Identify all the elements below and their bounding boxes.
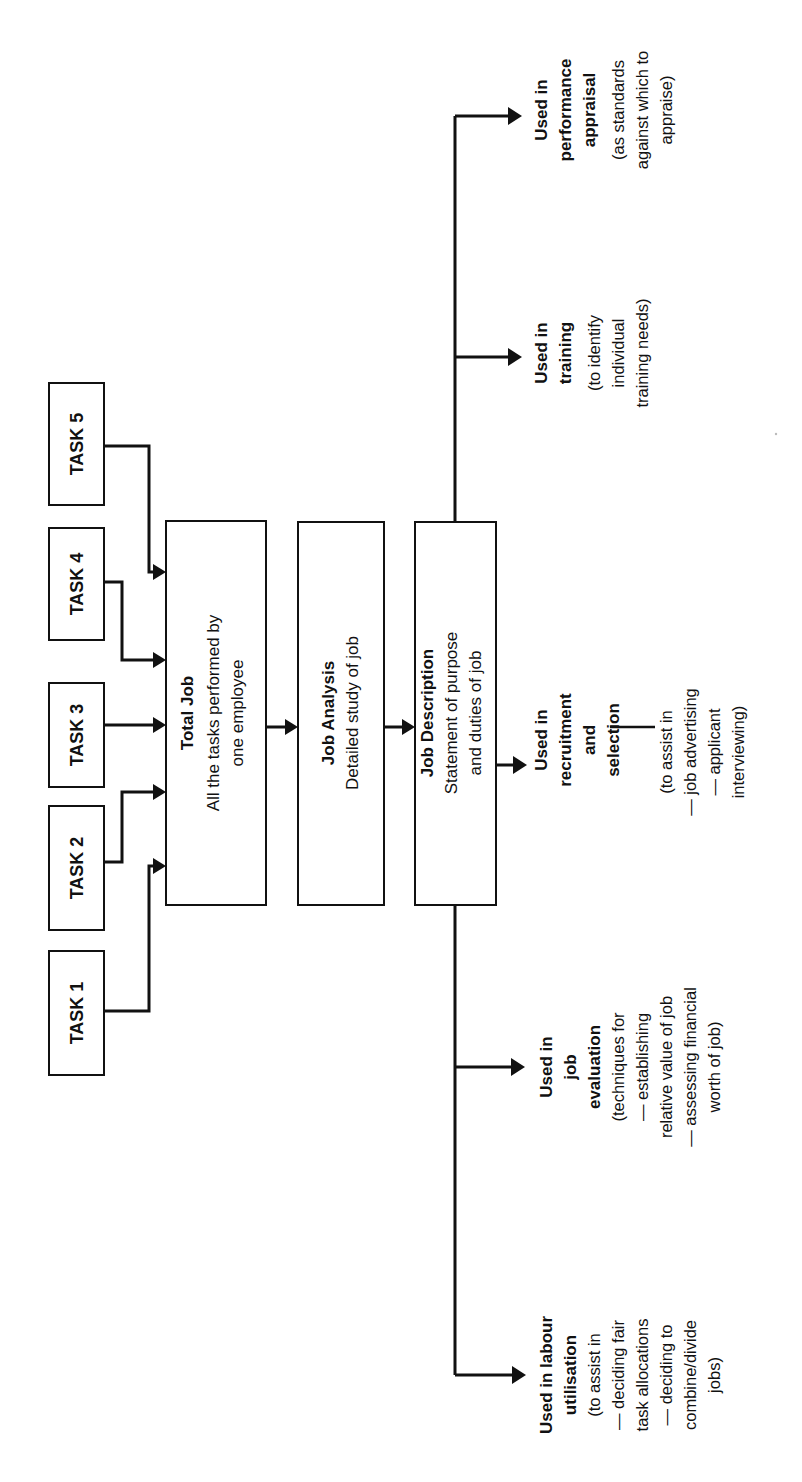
- task-box-5: TASK 5: [49, 383, 104, 505]
- arrow-icon: [153, 652, 166, 668]
- svg-text:Used in labour: Used in labour: [537, 1316, 556, 1434]
- svg-text:Used in: Used in: [537, 1036, 556, 1097]
- arrow-icon: [285, 719, 298, 735]
- task-label: TASK 2: [67, 837, 87, 900]
- job-analysis-diagram: TASK 5 TASK 4 TASK 3 TASK 2 TASK 1 T: [0, 0, 802, 1482]
- total-job-title: Total Job: [178, 676, 197, 750]
- arrow-icon: [402, 719, 415, 735]
- svg-text:Used in: Used in: [532, 709, 551, 770]
- svg-text:(to assist in: (to assist in: [585, 1333, 603, 1416]
- arrow-icon: [153, 564, 166, 580]
- svg-text:— deciding fair: — deciding fair: [609, 1319, 627, 1430]
- svg-text:individual: individual: [609, 319, 627, 388]
- svg-text:against which to: against which to: [633, 51, 651, 169]
- svg-text:performance: performance: [556, 59, 575, 162]
- arrow-icon: [512, 1366, 526, 1384]
- task-label: TASK 4: [67, 553, 87, 616]
- svg-text:job: job: [561, 1054, 580, 1081]
- total-job-line1: All the tasks performed by: [204, 614, 223, 811]
- svg-text:and: and: [580, 725, 599, 755]
- job-analysis-title: Job Analysis: [319, 661, 338, 765]
- job-description-title: Job Description: [418, 649, 437, 777]
- svg-text:relative value of job: relative value of job: [657, 996, 675, 1138]
- total-job-box: Total Job All the tasks performed by one…: [166, 521, 266, 905]
- job-description-box: Job Description Statement of purpose and…: [415, 522, 496, 905]
- svg-text:Used in: Used in: [532, 322, 551, 383]
- svg-text:jobs): jobs): [705, 1357, 723, 1394]
- svg-text:— deciding to: — deciding to: [657, 1325, 675, 1426]
- svg-text:combine/divide: combine/divide: [681, 1320, 699, 1430]
- arrow-icon: [508, 348, 522, 366]
- svg-text:— establishing: — establishing: [633, 1013, 651, 1121]
- svg-text:(to identify: (to identify: [585, 314, 603, 391]
- arrow-icon: [153, 858, 166, 874]
- task-label: TASK 3: [67, 704, 87, 767]
- task-box-1: TASK 1: [49, 951, 104, 1075]
- use-performance-appraisal: Used in performance appraisal (as standa…: [532, 51, 675, 169]
- arrow-icon: [513, 756, 527, 774]
- arrow-icon: [511, 1058, 525, 1076]
- svg-text:worth of job): worth of job): [705, 1022, 723, 1114]
- svg-text:task allocations: task allocations: [633, 1319, 651, 1432]
- svg-text:(to assist in: (to assist in: [657, 710, 675, 793]
- svg-text:appraisal: appraisal: [580, 73, 599, 148]
- task-connectors: [104, 446, 166, 1011]
- svg-text:evaluation: evaluation: [585, 1025, 604, 1109]
- svg-text:(as standards: (as standards: [609, 60, 627, 160]
- task-box-4: TASK 4: [49, 528, 104, 640]
- job-description-line1: Statement of purpose: [442, 632, 461, 795]
- arrow-icon: [153, 717, 166, 733]
- job-analysis-box: Job Analysis Detailed study of job: [298, 522, 384, 905]
- svg-text:appraise): appraise): [657, 76, 675, 145]
- svg-text:— assessing financial: — assessing financial: [681, 987, 699, 1147]
- use-labour-utilisation: Used in labour utilisation (to assist in…: [537, 1316, 723, 1434]
- task-box-2: TASK 2: [49, 806, 104, 930]
- svg-text:utilisation: utilisation: [561, 1335, 580, 1415]
- svg-text:recruitment: recruitment: [556, 693, 575, 787]
- arrow-icon: [153, 784, 166, 800]
- use-training: Used in training (to identify individual…: [532, 298, 651, 407]
- job-analysis-line1: Detailed study of job: [343, 636, 362, 790]
- use-job-evaluation: Used in job evaluation (techniques for —…: [537, 987, 723, 1147]
- use-recruitment-selection: Used in recruitment and selection (to as…: [532, 688, 747, 815]
- svg-text:— applicant: — applicant: [705, 708, 723, 796]
- svg-text:(techniques for: (techniques for: [609, 1012, 627, 1122]
- task-label: TASK 1: [67, 982, 87, 1045]
- task-label: TASK 5: [67, 413, 87, 476]
- arrow-icon: [508, 107, 522, 125]
- svg-text:training needs): training needs): [633, 298, 651, 407]
- svg-text:training: training: [556, 322, 575, 384]
- scan-speck: [775, 433, 777, 435]
- svg-text:— job advertising: — job advertising: [681, 688, 699, 815]
- svg-text:Used in: Used in: [532, 79, 551, 140]
- job-description-line2: and duties of job: [466, 651, 485, 776]
- task-box-3: TASK 3: [49, 683, 104, 787]
- svg-text:selection: selection: [604, 703, 623, 777]
- total-job-line2: one employee: [228, 660, 247, 767]
- svg-text:interviewing): interviewing): [729, 706, 747, 799]
